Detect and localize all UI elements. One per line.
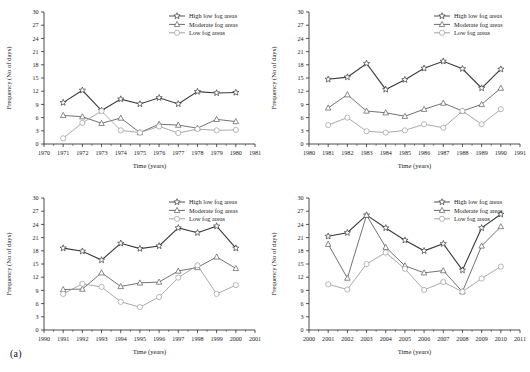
y-axis-tick-label: 6: [300, 115, 303, 121]
legend-label: Low fog areas: [454, 29, 491, 36]
x-axis-tick-label: 2000: [303, 336, 315, 342]
x-axis-tick-label: 1988: [456, 150, 468, 156]
data-point-marker: [402, 76, 408, 82]
y-axis-tick-label: 21: [297, 235, 303, 241]
data-point-marker: [195, 126, 200, 131]
series-3: [61, 108, 239, 140]
line-chart-panel-1991-2000: 0369121518212427301990199119921993199419…: [0, 186, 265, 372]
y-axis-tick-label: 18: [297, 248, 303, 254]
data-point-marker: [99, 270, 105, 275]
x-axis-tick-label: 1991: [57, 336, 69, 342]
y-axis-tick-label: 30: [297, 195, 303, 201]
series-2: [60, 112, 238, 134]
legend-label: Low fog areas: [189, 29, 226, 36]
series-1: [60, 223, 239, 263]
y-axis-tick-label: 27: [32, 208, 38, 214]
chart-legend: High low fog areasModerate fog areasLow …: [169, 12, 238, 36]
data-point-marker: [383, 130, 388, 135]
data-point-marker: [421, 248, 427, 254]
x-axis-tick-label: 2008: [456, 336, 468, 342]
data-point-marker: [156, 124, 161, 129]
data-point-marker: [345, 115, 350, 120]
y-axis-tick-label: 27: [297, 22, 303, 28]
legend-label: Low fog areas: [189, 215, 226, 222]
x-axis-tick-label: 2010: [495, 336, 507, 342]
data-point-marker: [61, 291, 66, 296]
x-axis-tick-label: 2009: [476, 336, 488, 342]
x-axis-tick-label: 2005: [399, 336, 411, 342]
y-axis-tick-label: 0: [300, 327, 303, 333]
y-axis-tick-label: 0: [35, 327, 38, 333]
data-point-marker: [60, 245, 66, 251]
x-axis-tick-label: 1976: [153, 150, 165, 156]
data-point-marker: [344, 74, 350, 80]
y-axis-title: Frequency (No of days): [270, 47, 278, 110]
y-axis-tick-label: 30: [32, 9, 38, 15]
x-axis-title: Time (years): [133, 162, 167, 170]
y-axis-tick-label: 24: [32, 222, 38, 228]
series-line: [328, 88, 501, 116]
data-point-marker: [325, 233, 331, 239]
data-point-marker: [479, 276, 484, 281]
data-point-marker: [383, 244, 389, 249]
data-point-marker: [80, 120, 85, 125]
y-axis-tick-label: 12: [32, 274, 38, 280]
x-axis-tick-label: 2006: [418, 336, 430, 342]
y-axis-tick-label: 3: [35, 314, 38, 320]
line-chart-panel-1971-1980: 0369121518212427301970197119721973197419…: [0, 0, 265, 186]
y-axis-tick-label: 6: [300, 301, 303, 307]
y-axis-tick-label: 21: [32, 235, 38, 241]
x-axis-tick-label: 1991: [514, 150, 526, 156]
data-point-marker: [214, 254, 220, 259]
series-2: [325, 85, 503, 118]
line-chart-panel-1981-1990: 0369121518212427301980198119821983198419…: [265, 0, 530, 186]
x-axis-tick-label: 1985: [399, 150, 411, 156]
data-point-marker: [80, 281, 85, 286]
x-axis-tick-label: 1989: [476, 150, 488, 156]
x-axis-tick-label: 1982: [341, 150, 353, 156]
series-1: [325, 58, 504, 92]
legend-marker-circle-icon: [434, 30, 450, 35]
y-axis-tick-label: 12: [297, 274, 303, 280]
data-point-marker: [325, 105, 331, 110]
chart-panel-1991-2000: 0369121518212427301990199119921993199419…: [0, 186, 265, 372]
x-axis-tick-label: 1983: [360, 150, 372, 156]
legend-label: Moderate fog areas: [189, 21, 238, 28]
data-point-marker: [79, 248, 85, 254]
x-axis-title: Time (years): [398, 348, 432, 356]
chart-panel-2001-2010: 0369121518212427302000200120022003200420…: [265, 186, 530, 372]
data-point-marker: [80, 286, 86, 291]
data-point-marker: [137, 245, 143, 251]
y-axis-tick-label: 24: [32, 36, 38, 42]
data-point-marker: [195, 263, 200, 268]
x-axis-tick-label: 1980: [230, 150, 242, 156]
series-2: [60, 254, 238, 292]
data-point-marker: [479, 225, 485, 231]
legend-marker-triangle-icon: [434, 21, 450, 26]
data-point-marker: [326, 122, 331, 127]
data-point-marker: [325, 76, 331, 82]
y-axis-tick-label: 9: [35, 102, 38, 108]
data-point-marker: [440, 240, 446, 246]
series-line: [328, 253, 501, 292]
series-line: [63, 265, 236, 307]
legend-marker-triangle-icon: [169, 21, 185, 26]
data-point-marker: [118, 115, 124, 120]
legend-label: Moderate fog areas: [189, 207, 238, 214]
data-point-marker: [176, 130, 181, 135]
data-point-marker: [402, 266, 407, 271]
data-point-marker: [233, 283, 238, 288]
data-point-marker: [498, 264, 503, 269]
legend-marker-star-icon: [434, 13, 450, 19]
figure-panel-grid: 0369121518212427301970197119721973197419…: [0, 0, 530, 372]
x-axis-tick-label: 1975: [134, 150, 146, 156]
legend-label: High low fog areas: [189, 198, 238, 205]
y-axis-tick-label: 3: [300, 314, 303, 320]
y-axis-tick-label: 12: [297, 88, 303, 94]
data-point-marker: [421, 287, 426, 292]
y-axis-tick-label: 3: [35, 128, 38, 134]
y-axis-tick-label: 27: [297, 208, 303, 214]
data-point-marker: [156, 95, 162, 101]
legend-label: High low fog areas: [189, 12, 238, 19]
y-axis-tick-label: 24: [297, 36, 303, 42]
